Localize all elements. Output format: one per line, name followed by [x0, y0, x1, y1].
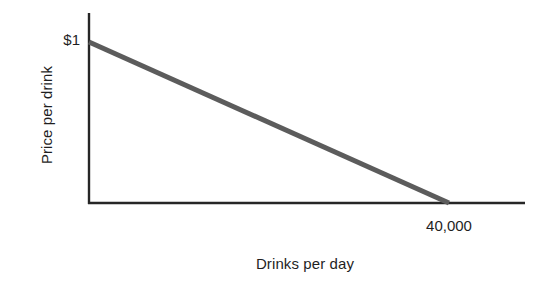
chart-plot-area: [0, 0, 543, 292]
x-tick-label-quantity: 40,000: [407, 218, 491, 233]
demand-curve-line: [89, 42, 449, 203]
x-axis-title: Drinks per day: [225, 256, 385, 271]
y-tick-label-price: $1: [40, 32, 80, 47]
demand-curve-figure: Price per drink Drinks per day $1 40,000: [0, 0, 543, 292]
y-axis-title: Price per drink: [39, 35, 54, 195]
